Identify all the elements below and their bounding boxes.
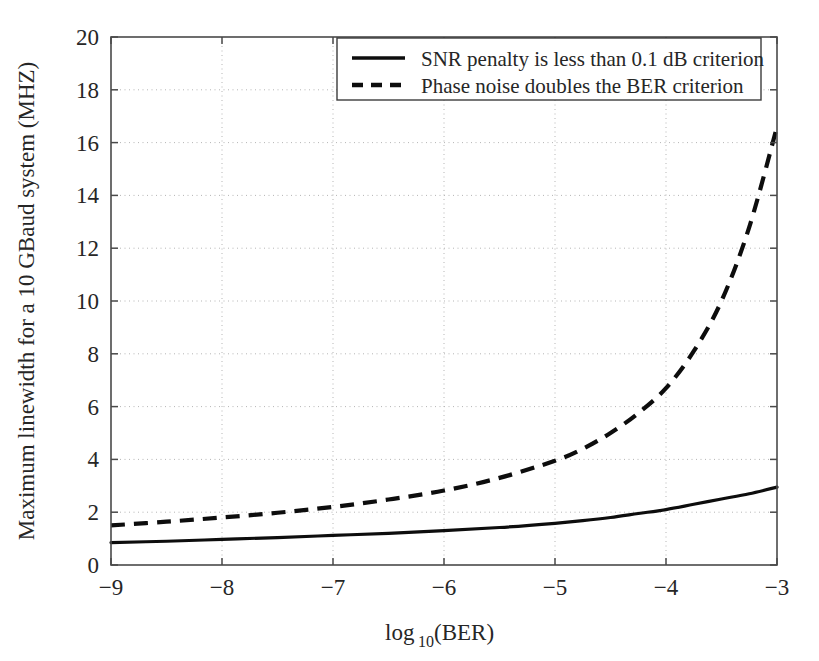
y-tick-label-0: 0	[88, 553, 100, 578]
x-axis-title-rest: (BER)	[434, 620, 494, 645]
y-tick-label-8: 16	[76, 131, 99, 156]
line-chart: −9−8−7−6−5−4−3 02468101214161820 Maximum…	[0, 0, 819, 661]
x-tick-label-0: −9	[99, 575, 123, 600]
y-tick-label-9: 18	[76, 78, 99, 103]
x-tick-label-4: −5	[543, 575, 567, 600]
y-tick-label-2: 4	[88, 447, 100, 472]
y-tick-label-10: 20	[76, 25, 99, 50]
y-axis-tick-labels: 02468101214161820	[76, 25, 100, 578]
x-tick-label-1: −8	[210, 575, 234, 600]
y-tick-label-6: 12	[76, 236, 99, 261]
x-axis-title-base: log	[385, 620, 415, 645]
legend-label-0: SNR penalty is less than 0.1 dB criterio…	[421, 47, 764, 71]
x-tick-label-5: −4	[654, 575, 679, 600]
y-tick-label-4: 8	[88, 342, 100, 367]
y-axis-title: Maximum linewidth for a 10 GBaud system …	[14, 62, 39, 540]
y-tick-label-3: 6	[88, 395, 100, 420]
x-axis-title: log 10 (BER)	[385, 620, 494, 650]
legend-label-1: Phase noise doubles the BER criterion	[421, 74, 744, 98]
x-tick-label-2: −7	[321, 575, 345, 600]
x-tick-label-3: −6	[432, 575, 456, 600]
y-tick-label-7: 14	[76, 183, 100, 208]
x-tick-label-6: −3	[765, 575, 789, 600]
x-axis-tick-labels: −9−8−7−6−5−4−3	[99, 575, 789, 600]
x-axis-title-subscript: 10	[418, 633, 434, 650]
y-tick-label-5: 10	[76, 289, 99, 314]
y-tick-label-1: 2	[88, 500, 100, 525]
chart-figure: −9−8−7−6−5−4−3 02468101214161820 Maximum…	[0, 0, 819, 661]
chart-legend: SNR penalty is less than 0.1 dB criterio…	[337, 38, 764, 100]
